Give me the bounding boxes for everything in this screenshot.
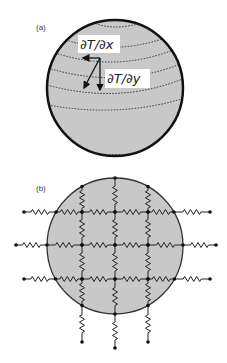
dTdx-label: ∂T/∂x [80,37,114,52]
grid-node [80,210,84,214]
resistor-horizontal [174,277,210,282]
resistor-vertical [113,314,118,348]
resistor-horizontal [183,243,216,248]
resistor-horizontal [16,243,47,248]
grid-node [113,243,117,247]
terminal-node [22,277,26,281]
terminal-node [146,340,150,344]
panel-b: (b) [14,176,218,350]
terminal-node [22,210,26,214]
terminal-node [208,210,212,214]
terminal-node [208,277,212,281]
grid-node [173,277,177,281]
grid-node [146,185,150,189]
resistor-horizontal [24,277,56,282]
panel-b-label: (b) [36,184,46,193]
grid-node [80,277,84,281]
terminal-node [14,243,18,247]
grid-node [146,210,150,214]
figure: (a) ∂T/∂x ∂T/∂y (b) [0,0,227,363]
resistor-horizontal [24,210,56,215]
grid-node [146,304,150,308]
terminal-node [214,243,218,247]
grid-node [113,210,117,214]
grid-node [54,210,58,214]
grid-node [146,277,150,281]
grid-node [54,277,58,281]
grid-node [113,312,117,316]
panel-a-label: (a) [36,23,46,32]
grid-node [80,304,84,308]
resistor-horizontal [174,210,210,215]
grid-node [146,243,150,247]
terminal-node [113,346,117,350]
grid-node [172,210,176,214]
resistor-vertical [80,305,85,342]
dTdy-label: ∂T/∂y [107,71,141,86]
grid-node [80,243,84,247]
grid-node [113,176,117,180]
terminal-node [80,340,84,344]
panel-a: (a) ∂T/∂x ∂T/∂y [36,18,185,156]
grid-node [45,243,49,247]
grid-node [113,277,117,281]
grid-node [80,185,84,189]
resistor-vertical [146,305,151,342]
grid-node [181,243,185,247]
